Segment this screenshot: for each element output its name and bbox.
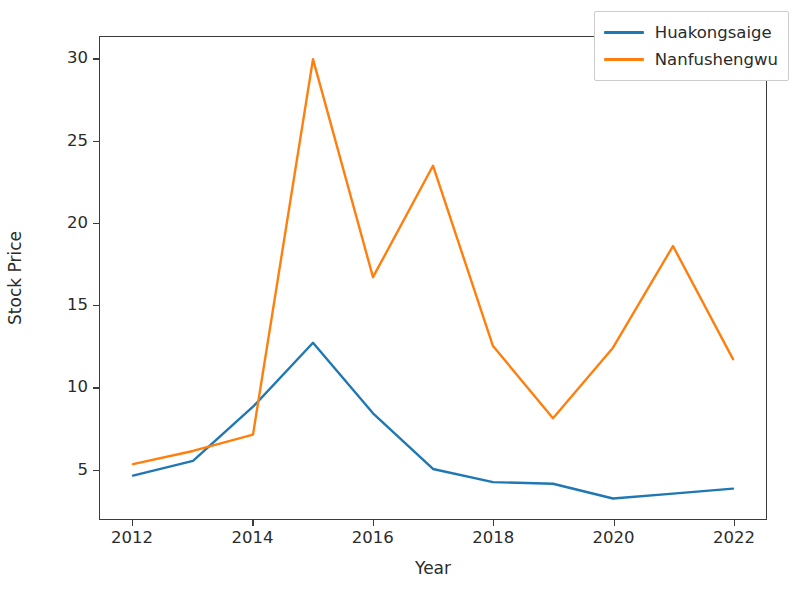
chart-legend: HuakongsaigeNanfushengwu (594, 11, 789, 81)
x-tick-label: 2020 (593, 530, 635, 547)
x-tick-mark (493, 520, 494, 526)
x-tick-label: 2012 (111, 530, 153, 547)
chart-figure: Stock Price 51015202530 2012201420162018… (0, 0, 801, 603)
y-tick-label: 5 (78, 462, 89, 479)
legend-label: Nanfushengwu (655, 50, 778, 69)
x-tick-mark (132, 520, 133, 526)
legend-label: Huakongsaige (655, 23, 772, 42)
x-tick-mark (614, 520, 615, 526)
x-tick-mark (252, 520, 253, 526)
legend-color-swatch (604, 31, 644, 34)
x-tick-label: 2018 (472, 530, 514, 547)
y-tick-mark (93, 223, 99, 224)
x-tick-mark (373, 520, 374, 526)
y-tick-label: 30 (67, 50, 88, 67)
y-tick-label: 20 (67, 215, 88, 232)
plot-lines (100, 37, 766, 519)
y-tick-mark (93, 305, 99, 306)
legend-color-swatch (604, 58, 644, 61)
y-tick-mark (93, 58, 99, 59)
y-tick-mark (93, 141, 99, 142)
y-axis-tick-labels: 51015202530 (40, 36, 88, 520)
y-tick-label: 25 (67, 132, 88, 149)
plot-area (99, 36, 767, 520)
x-tick-label: 2022 (713, 530, 755, 547)
series-line (133, 59, 733, 464)
x-tick-mark (734, 520, 735, 526)
y-tick-label: 10 (67, 379, 88, 396)
x-axis-tick-labels: 201220142016201820202022 (99, 530, 767, 554)
y-axis-label: Stock Price (0, 36, 30, 520)
y-tick-label: 15 (67, 297, 88, 314)
x-tick-label: 2014 (231, 530, 273, 547)
legend-item: Huakongsaige (604, 19, 778, 46)
series-line (133, 343, 733, 499)
y-tick-mark (93, 470, 99, 471)
x-tick-label: 2016 (352, 530, 394, 547)
y-tick-mark (93, 387, 99, 388)
x-axis-label: Year (99, 558, 767, 578)
legend-item: Nanfushengwu (604, 46, 778, 73)
